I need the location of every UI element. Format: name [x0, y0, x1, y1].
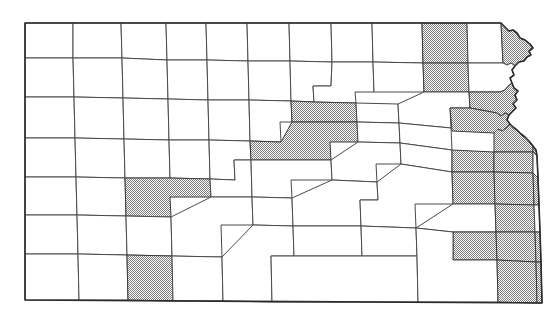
county-seward[interactable]: [127, 255, 173, 301]
county-marshall[interactable]: [422, 23, 468, 63]
county-rooks[interactable]: [207, 60, 249, 100]
county-phillips[interactable]: [206, 23, 248, 61]
county-wallace[interactable]: [25, 97, 75, 138]
map-canvas: [0, 0, 556, 313]
county-kiowa-barber[interactable]: [293, 226, 362, 256]
county-labette-cherokee[interactable]: [497, 260, 537, 303]
county-stanton[interactable]: [25, 215, 78, 254]
county-montgomery[interactable]: [496, 232, 536, 262]
county-haskell[interactable]: [126, 216, 172, 256]
kansas-county-map: [0, 0, 556, 313]
county-decatur[interactable]: [121, 23, 167, 60]
county-ford[interactable]: [252, 197, 293, 226]
county-sheridan[interactable]: [122, 58, 168, 99]
county-rawlins[interactable]: [73, 23, 122, 58]
county-scott[interactable]: [124, 139, 170, 178]
county-trego[interactable]: [168, 99, 209, 140]
county-kearny[interactable]: [76, 177, 126, 216]
county-thomas[interactable]: [73, 58, 123, 98]
county-cowley[interactable]: [453, 232, 497, 260]
county-sumner[interactable]: [271, 256, 418, 302]
county-nemaha[interactable]: [467, 23, 503, 63]
county-mcpherson-marion[interactable]: [452, 150, 494, 172]
county-morton[interactable]: [25, 254, 79, 300]
county-ellis[interactable]: [208, 100, 250, 141]
county-hamilton[interactable]: [25, 177, 77, 215]
county-republic[interactable]: [331, 23, 373, 62]
county-logan[interactable]: [74, 97, 124, 139]
county-greeley[interactable]: [25, 138, 76, 177]
county-lane[interactable]: [169, 140, 210, 179]
county-graham[interactable]: [167, 60, 208, 100]
county-gove[interactable]: [123, 98, 169, 140]
county-osborne[interactable]: [248, 61, 291, 101]
county-wichita[interactable]: [75, 138, 125, 178]
county-barber-s[interactable]: [416, 204, 496, 232]
county-layer: [25, 23, 542, 303]
county-grant[interactable]: [77, 215, 127, 255]
county-meade[interactable]: [172, 256, 223, 301]
county-elk-chautauqua[interactable]: [495, 204, 535, 232]
county-stevens[interactable]: [78, 254, 128, 300]
county-butler[interactable]: [494, 172, 534, 205]
county-jewell[interactable]: [289, 23, 332, 62]
county-smith[interactable]: [247, 23, 290, 61]
county-sherman[interactable]: [25, 58, 74, 97]
county-cheyenne[interactable]: [25, 23, 73, 58]
county-lincoln[interactable]: [291, 101, 357, 122]
county-reno-sedgwick[interactable]: [452, 172, 495, 204]
county-chase-lyon[interactable]: [494, 152, 533, 173]
county-harper[interactable]: [361, 226, 417, 256]
county-brown-doniphan[interactable]: [501, 23, 533, 66]
county-republic-s[interactable]: [373, 62, 424, 92]
county-washington[interactable]: [372, 23, 423, 63]
county-norton[interactable]: [166, 23, 207, 60]
county-ellsworth[interactable]: [357, 122, 400, 143]
county-clay[interactable]: [423, 63, 469, 92]
county-ottawa[interactable]: [356, 103, 399, 123]
